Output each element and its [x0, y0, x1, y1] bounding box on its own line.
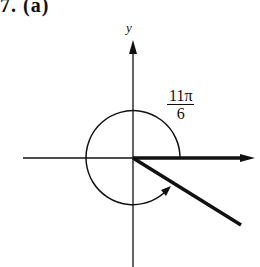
terminal-side-ray	[133, 158, 241, 225]
y-axis-arrow-icon	[129, 40, 137, 54]
initial-side-arrow-icon	[240, 154, 255, 162]
angle-diagram	[0, 0, 260, 267]
